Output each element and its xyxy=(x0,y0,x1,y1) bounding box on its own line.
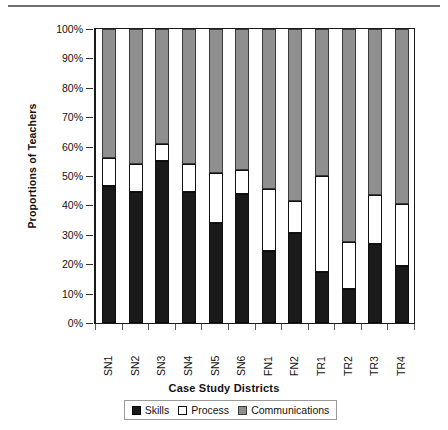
y-axis-tick-label: 70% xyxy=(37,111,83,123)
bar-segment-skills xyxy=(262,251,276,323)
y-axis-tick xyxy=(86,147,93,148)
y-axis-tick-labels: 100%90%80%70%60%50%40%30%20%10%0% xyxy=(37,0,83,430)
bar-tr2 xyxy=(342,29,356,323)
bar-segment-process xyxy=(262,189,276,251)
chart-page: Proportions of Teachers 100%90%80%70%60%… xyxy=(0,0,448,430)
x-axis-label-tr1: TR1 xyxy=(315,330,327,376)
bar-segment-communications xyxy=(368,29,382,195)
y-axis-tick-label: 80% xyxy=(37,82,83,94)
y-axis-tick xyxy=(86,264,93,265)
bar-segment-communications xyxy=(102,29,116,158)
bar-segment-skills xyxy=(395,266,409,323)
bar-segment-communications xyxy=(235,29,249,170)
bar-segment-process xyxy=(129,164,143,192)
bar-tr4 xyxy=(395,29,409,323)
legend-item-skills[interactable]: Skills xyxy=(132,404,170,416)
bar-series-container xyxy=(95,29,414,323)
bar-segment-process xyxy=(209,173,223,223)
x-axis-label-sn1: SN1 xyxy=(102,330,114,376)
y-axis-tick-label: 100% xyxy=(37,23,83,35)
bar-segment-process xyxy=(315,176,329,272)
y-axis-tick-label: 30% xyxy=(37,229,83,241)
bar-segment-skills xyxy=(155,161,169,323)
x-axis-label-sn3: SN3 xyxy=(155,330,167,376)
y-axis-tick xyxy=(86,205,93,206)
bar-segment-skills xyxy=(182,192,196,323)
y-axis-tick xyxy=(86,29,93,30)
bar-segment-skills xyxy=(235,194,249,323)
x-axis-title: Case Study Districts xyxy=(0,382,448,394)
x-axis-label-fn2: FN2 xyxy=(288,330,300,376)
x-axis-label-tr2: TR2 xyxy=(342,330,354,376)
bar-segment-communications xyxy=(209,29,223,173)
x-axis-label-tr4: TR4 xyxy=(395,330,407,376)
bar-segment-process xyxy=(102,158,116,186)
x-axis-label-sn6: SN6 xyxy=(235,330,247,376)
y-axis-tick-label: 40% xyxy=(37,199,83,211)
x-axis-category-labels: SN1SN2SN3SN4SN5SN6FN1FN2TR1TR2TR3TR4 xyxy=(95,330,415,376)
bar-segment-communications xyxy=(315,29,329,176)
legend-label: Communications xyxy=(251,404,329,416)
bar-fn2 xyxy=(288,29,302,323)
y-axis-tick-label: 50% xyxy=(37,170,83,182)
y-axis-tick xyxy=(86,323,93,324)
x-axis-label-sn5: SN5 xyxy=(209,330,221,376)
legend-label: Skills xyxy=(145,404,170,416)
bar-tr3 xyxy=(368,29,382,323)
bar-segment-communications xyxy=(342,29,356,242)
bar-segment-communications xyxy=(182,29,196,164)
y-axis-tick-label: 10% xyxy=(37,288,83,300)
bar-segment-communications xyxy=(155,29,169,144)
x-axis-label-sn2: SN2 xyxy=(129,330,141,376)
chart-legend: SkillsProcessCommunications xyxy=(124,400,337,420)
bar-segment-communications xyxy=(288,29,302,201)
bar-segment-process xyxy=(288,201,302,233)
y-axis-tick xyxy=(86,176,93,177)
bar-sn2 xyxy=(129,29,143,323)
bar-tr1 xyxy=(315,29,329,323)
legend-item-comms[interactable]: Communications xyxy=(238,404,329,416)
legend-label: Process xyxy=(191,404,229,416)
legend-item-process[interactable]: Process xyxy=(178,404,229,416)
bar-segment-skills xyxy=(315,272,329,323)
bar-segment-skills xyxy=(342,289,356,323)
y-axis-tick-label: 60% xyxy=(37,141,83,153)
bar-segment-process xyxy=(155,144,169,162)
bar-sn1 xyxy=(102,29,116,323)
bar-segment-communications xyxy=(262,29,276,189)
y-axis-tick xyxy=(86,58,93,59)
chart-figure: Proportions of Teachers 100%90%80%70%60%… xyxy=(0,0,448,430)
bar-segment-skills xyxy=(368,244,382,323)
bar-segment-communications xyxy=(129,29,143,164)
legend-swatch-skills-icon xyxy=(132,406,141,415)
x-axis-label-sn4: SN4 xyxy=(182,330,194,376)
bar-sn3 xyxy=(155,29,169,323)
bar-segment-skills xyxy=(209,223,223,323)
legend-swatch-process-icon xyxy=(178,406,187,415)
bar-sn4 xyxy=(182,29,196,323)
y-axis-tick xyxy=(86,88,93,89)
bar-segment-skills xyxy=(102,186,116,323)
y-axis-tick-label: 0% xyxy=(37,317,83,329)
y-axis-tick-label: 90% xyxy=(37,52,83,64)
legend-swatch-comms-icon xyxy=(238,406,247,415)
bar-segment-skills xyxy=(288,233,302,323)
bar-sn5 xyxy=(209,29,223,323)
y-axis-tick xyxy=(86,235,93,236)
bar-segment-communications xyxy=(395,29,409,204)
y-axis-tick xyxy=(86,117,93,118)
bar-sn6 xyxy=(235,29,249,323)
y-axis-tick xyxy=(86,294,93,295)
y-axis-tick-label: 20% xyxy=(37,258,83,270)
x-axis-label-fn1: FN1 xyxy=(262,330,274,376)
bar-segment-skills xyxy=(129,192,143,323)
bar-fn1 xyxy=(262,29,276,323)
x-axis-label-tr3: TR3 xyxy=(368,330,380,376)
bar-segment-process xyxy=(235,170,249,194)
bar-segment-process xyxy=(182,164,196,192)
bar-segment-process xyxy=(368,195,382,244)
bar-segment-process xyxy=(395,204,409,266)
bar-segment-process xyxy=(342,242,356,289)
